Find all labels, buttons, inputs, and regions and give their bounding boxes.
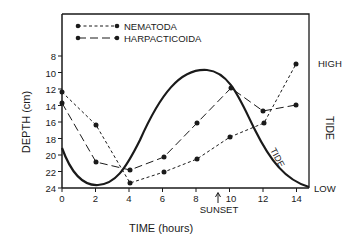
- data-point: [294, 62, 299, 67]
- x-tick-label: 0: [59, 193, 64, 204]
- y-tick-label: 18: [45, 134, 56, 145]
- data-point: [128, 168, 133, 173]
- sunset-label: SUNSET: [200, 204, 239, 215]
- data-point: [60, 101, 65, 106]
- x-tick-label: 8: [193, 193, 198, 204]
- data-point: [195, 121, 200, 126]
- y-tick-label: 14: [45, 101, 56, 112]
- y-tick-label: 24: [45, 183, 56, 194]
- x-ticks: 0 2 4 6 8 10 12 14: [59, 188, 301, 204]
- data-point: [228, 135, 233, 140]
- data-point: [94, 123, 99, 128]
- y-tick-label: 8: [51, 51, 56, 62]
- chart-svg: 8 10 12 14 16 18 20 22 24 0 2 4 6 8 10 1…: [0, 0, 352, 249]
- tide-curve: [62, 70, 309, 187]
- data-point: [195, 157, 200, 162]
- series-harpacticoida: [60, 86, 299, 173]
- y-tick-label: 22: [45, 167, 56, 178]
- y-tick-label: 16: [45, 117, 56, 128]
- data-point: [229, 86, 234, 91]
- tide-low-label: LOW: [314, 183, 336, 194]
- legend-label-nematoda: NEMATODA: [124, 21, 178, 32]
- y-axis-label: DEPTH (cm): [20, 91, 32, 153]
- data-point: [261, 109, 266, 114]
- x-tick-label: 6: [160, 193, 165, 204]
- right-axis-label: TIDE: [324, 116, 336, 140]
- x-axis-label: TIME (hours): [129, 222, 193, 234]
- y-ticks: 8 10 12 14 16 18 20 22 24: [45, 51, 62, 194]
- data-point: [294, 103, 299, 108]
- x-tick-label: 12: [258, 193, 269, 204]
- data-point: [60, 90, 65, 95]
- y-tick-label: 10: [45, 68, 56, 79]
- data-point: [94, 160, 99, 165]
- legend-label-harpacticoida: HARPACTICOIDA: [124, 33, 202, 44]
- x-tick-label: 4: [126, 193, 131, 204]
- x-tick-label: 10: [226, 193, 237, 204]
- data-point: [162, 170, 167, 175]
- depth-time-chart: 8 10 12 14 16 18 20 22 24 0 2 4 6 8 10 1…: [0, 0, 352, 249]
- x-tick-label: 2: [93, 193, 98, 204]
- data-point: [162, 155, 167, 160]
- data-point: [128, 181, 133, 186]
- y-tick-label: 12: [45, 84, 56, 95]
- tide-high-label: HIGH: [318, 58, 342, 69]
- y-tick-label: 20: [45, 150, 56, 161]
- x-tick-label: 14: [291, 193, 302, 204]
- legend-item-harpacticoida: HARPACTICOIDA: [76, 33, 202, 44]
- legend: NEMATODA HARPACTICOIDA: [76, 21, 202, 44]
- data-point: [262, 121, 267, 126]
- legend-item-nematoda: NEMATODA: [76, 21, 178, 32]
